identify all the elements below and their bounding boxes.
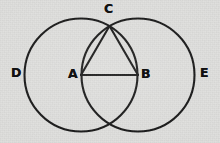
- geometry-figure: D A C B E: [0, 0, 220, 143]
- point-label-a: A: [68, 68, 78, 81]
- point-label-d: D: [11, 67, 21, 80]
- point-label-e: E: [200, 67, 209, 80]
- segment-bc: [110, 26, 139, 75]
- segment-ac: [81, 26, 110, 75]
- point-label-c: C: [104, 3, 113, 16]
- geometry-canvas: [0, 0, 220, 143]
- point-label-b: B: [141, 68, 151, 81]
